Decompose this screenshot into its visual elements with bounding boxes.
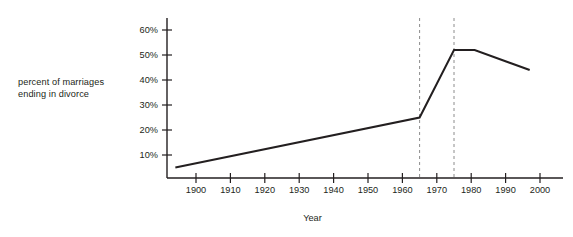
x-tick-label-1940: 1940 <box>323 185 343 195</box>
x-axis-title-text: Year <box>303 213 322 223</box>
x-axis-title: Year <box>0 213 573 223</box>
x-tick-label-1960: 1960 <box>392 185 412 195</box>
annotation-lines-group <box>420 18 454 178</box>
x-tick-label-2000: 2000 <box>530 185 550 195</box>
y-tick-label-20: 20% <box>128 125 158 135</box>
data-series-group <box>175 50 529 168</box>
x-tick-label-1900: 1900 <box>186 185 206 195</box>
x-tick-label-1980: 1980 <box>461 185 481 195</box>
y-axis-title: percent of marriages ending in divorce <box>18 76 130 101</box>
y-tick-label-10: 10% <box>128 150 158 160</box>
axes-group <box>167 18 563 178</box>
plot-area <box>0 0 573 237</box>
y-tick-label-30: 30% <box>128 100 158 110</box>
y-axis-title-line-1: percent of marriages <box>18 76 130 88</box>
y-tick-label-50: 50% <box>128 50 158 60</box>
x-tick-label-1970: 1970 <box>427 185 447 195</box>
x-tick-label-1990: 1990 <box>495 185 515 195</box>
y-tick-label-60: 60% <box>128 25 158 35</box>
x-tick-label-1950: 1950 <box>358 185 378 195</box>
x-tick-label-1920: 1920 <box>255 185 275 195</box>
series-line-0 <box>175 50 529 168</box>
y-tick-label-40: 40% <box>128 75 158 85</box>
x-tick-label-1910: 1910 <box>220 185 240 195</box>
x-tick-label-1930: 1930 <box>289 185 309 195</box>
divorce-rate-line-chart: percent of marriages ending in divorce Y… <box>0 0 573 237</box>
y-axis-title-line-2: ending in divorce <box>18 88 130 100</box>
